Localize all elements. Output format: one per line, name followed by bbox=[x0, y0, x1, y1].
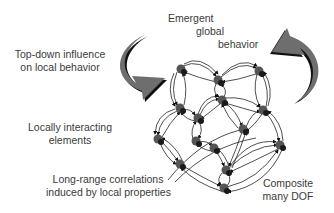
top-down-line-2: on local behavior bbox=[10, 61, 110, 74]
locally-interacting-label: Locally interacting elements bbox=[28, 121, 112, 147]
top-down-arrow-icon bbox=[120, 34, 167, 102]
node bbox=[192, 137, 203, 148]
composite-line-2: many DOF bbox=[258, 190, 318, 203]
node bbox=[220, 184, 231, 195]
locally-line-1: Locally interacting bbox=[28, 121, 112, 134]
emergent-line-3: behavior bbox=[168, 38, 268, 51]
composite-label: Composite many DOF bbox=[258, 177, 318, 203]
locally-line-2: elements bbox=[28, 134, 112, 147]
emergent-line-2: global bbox=[168, 25, 268, 38]
long-range-label: Long-range correlations induced by local… bbox=[46, 173, 170, 199]
node bbox=[214, 76, 225, 87]
long-range-line-2: induced by local properties bbox=[46, 186, 170, 199]
node bbox=[210, 144, 221, 155]
node bbox=[259, 106, 270, 117]
node bbox=[239, 125, 250, 136]
top-down-label: Top-down influence on local behavior bbox=[10, 48, 110, 74]
composite-line-1: Composite bbox=[258, 177, 318, 190]
emergent-arrow-icon bbox=[270, 28, 319, 104]
node bbox=[176, 160, 187, 171]
node bbox=[255, 67, 266, 78]
emergent-label: Emergent global behavior bbox=[168, 12, 268, 51]
top-down-line-1: Top-down influence bbox=[10, 48, 110, 61]
emergent-line-1: Emergent bbox=[168, 12, 268, 25]
long-range-line-1: Long-range correlations bbox=[46, 173, 170, 186]
node bbox=[177, 65, 188, 76]
node bbox=[176, 104, 187, 115]
